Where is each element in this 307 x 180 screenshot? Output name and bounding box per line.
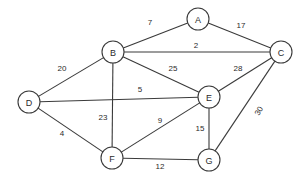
graph-edge-f-g: [123, 158, 198, 160]
edge-weight-d-b: 20: [58, 64, 67, 73]
graph-node-f[interactable]: F: [101, 147, 123, 169]
edge-weight-a-c: 17: [237, 21, 246, 30]
edge-weight-b-a: 7: [148, 18, 153, 27]
graph-node-d[interactable]: D: [18, 91, 40, 113]
graph-canvas: ABCDEFG 717220252853023915412: [0, 0, 307, 180]
edge-weights-layer: 717220252853023915412: [58, 18, 266, 171]
graph-edge-f-e: [121, 103, 199, 152]
node-label-g: G: [205, 156, 212, 166]
edge-weight-e-g: 15: [196, 124, 205, 133]
graph-node-g[interactable]: G: [198, 149, 220, 171]
graph-edge-b-f: [112, 63, 113, 147]
edge-weight-e-c: 28: [234, 64, 243, 73]
edge-weight-d-e: 5: [138, 85, 143, 94]
edges-layer: [38, 23, 275, 160]
edge-weight-f-g: 12: [156, 162, 165, 171]
node-label-a: A: [195, 15, 201, 25]
graph-edge-e-c: [218, 58, 271, 91]
node-label-f: F: [109, 154, 115, 164]
edge-weight-b-e: 25: [169, 64, 178, 73]
node-label-d: D: [26, 98, 33, 108]
graph-edge-d-e: [40, 97, 198, 101]
node-label-b: B: [110, 48, 116, 58]
graph-edge-d-b: [38, 58, 103, 97]
graph-edge-d-f: [38, 108, 103, 152]
graph-node-c[interactable]: C: [270, 41, 292, 63]
node-label-c: C: [278, 48, 285, 58]
node-label-e: E: [206, 93, 212, 103]
graph-node-a[interactable]: A: [187, 8, 209, 30]
graph-node-b[interactable]: B: [102, 41, 124, 63]
edge-weight-d-f: 4: [60, 129, 65, 138]
graph-diagram: ABCDEFG 717220252853023915412: [0, 0, 307, 180]
graph-edge-b-a: [123, 23, 187, 48]
edge-weight-b-c: 2: [194, 41, 199, 50]
graph-node-e[interactable]: E: [198, 86, 220, 108]
edge-weight-f-e: 9: [158, 116, 163, 125]
nodes-layer: ABCDEFG: [18, 8, 292, 171]
edge-weight-c-g: 30: [253, 104, 265, 117]
graph-edge-b-e: [123, 57, 199, 93]
edge-weight-b-f: 23: [99, 113, 108, 122]
